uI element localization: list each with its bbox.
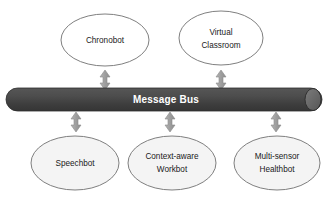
diagram-canvas: Chronobot Virtual Classroom Message Bus xyxy=(0,0,336,199)
bidirectional-arrow-icon xyxy=(216,70,226,90)
context-aware-workbot-label-line1: Context-aware xyxy=(145,152,199,161)
node-multi-sensor-healthbot[interactable]: Multi-sensor Healthbot xyxy=(234,136,320,190)
bidirectional-arrow-icon xyxy=(71,112,81,132)
bidirectional-arrow-icon xyxy=(271,112,281,132)
message-bus-end-cap xyxy=(305,89,321,111)
arrow-chronobot-to-bus xyxy=(100,70,110,90)
virtual-classroom-label-line1: Virtual xyxy=(209,28,232,37)
speechbot-label: Speechbot xyxy=(55,159,95,168)
node-virtual-classroom[interactable]: Virtual Classroom xyxy=(179,11,263,65)
message-bus[interactable]: Message Bus xyxy=(6,88,322,111)
multi-sensor-healthbot-label-line2: Healthbot xyxy=(259,165,295,174)
bidirectional-arrow-icon xyxy=(100,70,110,90)
arrow-bus-to-speechbot xyxy=(71,112,81,132)
virtual-classroom-ellipse xyxy=(179,11,263,65)
node-speechbot[interactable]: Speechbot xyxy=(31,136,119,190)
arrow-bus-to-multi-sensor-healthbot xyxy=(271,112,281,132)
context-aware-workbot-label-line2: Workbot xyxy=(157,165,188,174)
message-bus-diagram: Chronobot Virtual Classroom Message Bus xyxy=(0,0,336,199)
arrow-virtual-classroom-to-bus xyxy=(216,70,226,90)
message-bus-label: Message Bus xyxy=(133,94,199,105)
node-chronobot[interactable]: Chronobot xyxy=(61,14,149,66)
chronobot-label: Chronobot xyxy=(86,36,125,45)
bidirectional-arrow-icon xyxy=(165,112,175,132)
multi-sensor-healthbot-ellipse xyxy=(234,136,320,190)
node-context-aware-workbot[interactable]: Context-aware Workbot xyxy=(128,136,216,190)
context-aware-workbot-ellipse xyxy=(128,136,216,190)
multi-sensor-healthbot-label-line1: Multi-sensor xyxy=(255,152,300,161)
arrow-bus-to-context-aware-workbot xyxy=(165,112,175,132)
virtual-classroom-label-line2: Classroom xyxy=(201,41,240,50)
